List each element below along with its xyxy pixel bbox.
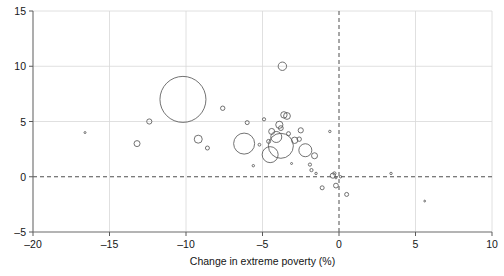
data-point-bubble (339, 176, 341, 178)
data-point-bubble (424, 200, 426, 202)
data-point-bubble (221, 106, 225, 110)
y-tick-label: 10 (14, 60, 26, 72)
data-point-bubble (258, 143, 261, 146)
data-point-bubble (262, 147, 278, 163)
data-point-bubble (252, 165, 254, 167)
data-point-bubble (287, 132, 291, 136)
y-tick-label: –5 (14, 226, 26, 238)
x-tick-label: 10 (486, 238, 498, 250)
x-tick-label: –15 (101, 238, 119, 250)
data-point-bubble (299, 144, 312, 157)
data-point-bubble (84, 132, 86, 134)
data-point-bubble (329, 130, 331, 132)
data-point-bubble (335, 177, 337, 179)
y-tick-label: 5 (20, 116, 26, 128)
x-tick-label: –20 (24, 238, 42, 250)
data-point-bubble (291, 162, 293, 164)
data-point-bubble (315, 172, 317, 174)
data-point-bubble (276, 121, 283, 128)
data-point-bubble (134, 141, 140, 147)
data-point-bubble (312, 153, 318, 159)
data-point-bubble (268, 133, 293, 158)
data-point-bubble (390, 172, 392, 174)
data-point-bubble (160, 76, 206, 122)
data-point-bubble (205, 146, 209, 150)
x-tick-label: –10 (177, 238, 195, 250)
y-tick-label: 0 (20, 171, 26, 183)
chart-plot-area: –5051015–20–15–10–50510Change in extreme… (0, 0, 504, 276)
x-tick-label: –5 (257, 238, 269, 250)
x-axis-title: Change in extreme poverty (%) (190, 255, 335, 267)
data-point-bubble (320, 186, 324, 190)
data-point-bubble (194, 135, 202, 143)
data-point-bubble (345, 192, 349, 196)
y-tick-label: 15 (14, 5, 26, 17)
x-tick-label: 0 (336, 238, 342, 250)
data-point-bubble (234, 133, 255, 154)
bubble-chart: –5051015–20–15–10–50510Change in extreme… (0, 0, 504, 276)
data-point-bubble (334, 183, 339, 188)
data-point-bubble (310, 169, 313, 172)
data-point-bubble (308, 163, 311, 166)
data-point-bubble (262, 118, 265, 121)
data-point-bubble (298, 128, 303, 133)
x-tick-label: 5 (413, 238, 419, 250)
